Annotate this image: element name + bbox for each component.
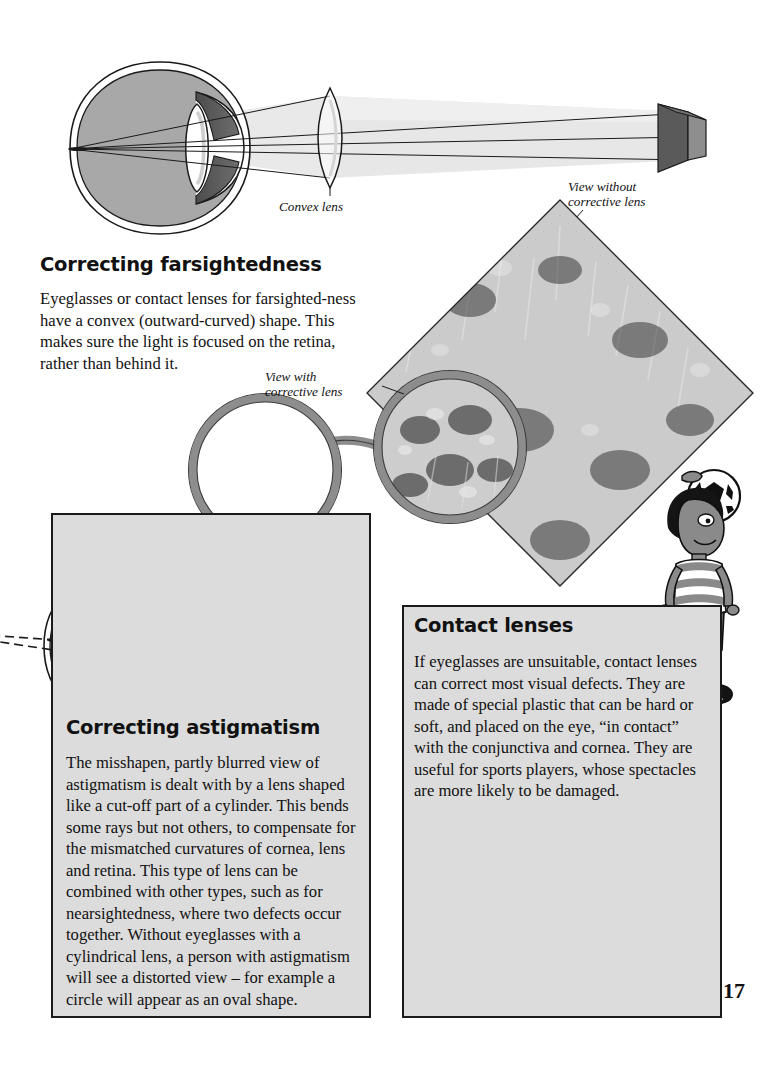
- heading-correcting-farsightedness: Correcting farsightedness: [40, 253, 380, 276]
- caption-convex-lens: Convex lens: [279, 199, 419, 214]
- caption-view-without-corrective-lens: View without corrective lens: [568, 179, 718, 209]
- caption-view-with-line2: corrective lens: [265, 384, 395, 399]
- body-correcting-farsightedness: Eyeglasses or contact lenses for farsigh…: [40, 288, 360, 374]
- light-rays-outer: [330, 96, 688, 178]
- heading-correcting-astigmatism: Correcting astigmatism: [66, 716, 366, 739]
- page-number: 17: [723, 978, 745, 1004]
- body-contact-lenses: If eyeglasses are unsuitable, contact le…: [414, 651, 710, 802]
- page-root: Convex lens View without corrective lens…: [0, 0, 773, 1070]
- heading-contact-lenses: Contact lenses: [414, 614, 714, 637]
- caption-view-without-line1: View without: [568, 179, 718, 194]
- caption-convex-lens-text: Convex lens: [279, 199, 343, 214]
- focal-point: [68, 147, 88, 151]
- body-correcting-astigmatism: The misshapen, partly blurred view of as…: [66, 752, 362, 1010]
- distant-object-prism: [658, 104, 706, 172]
- caption-view-without-line2: corrective lens: [568, 194, 718, 209]
